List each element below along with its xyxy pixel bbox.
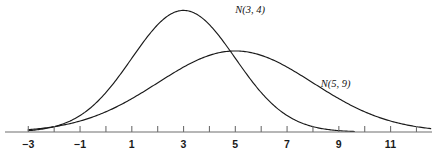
- curve-label-2: N(5, 9): [320, 78, 351, 90]
- axis-tick-label: 5: [232, 138, 238, 150]
- curve-annotations: N(3, 4)N(5, 9): [234, 4, 351, 90]
- axis-tick-label: −1: [74, 138, 86, 150]
- axis-ticks: [28, 126, 416, 132]
- normal-distribution-figure: −3−11357911 N(3, 4)N(5, 9): [0, 0, 432, 159]
- axis-tick-label: −3: [22, 138, 34, 150]
- axis-tick-label: 7: [284, 138, 290, 150]
- axis-tick-label: 9: [336, 138, 342, 150]
- axis-tick-label: 3: [181, 138, 187, 150]
- density-curve-2: [28, 51, 430, 130]
- axis-tick-label: 1: [129, 138, 135, 150]
- axis-tick-labels: −3−11357911: [22, 138, 396, 150]
- curve-label-1: N(3, 4): [234, 4, 265, 16]
- curves-group: [28, 10, 430, 131]
- density-curve-1: [28, 10, 354, 131]
- axis-tick-label: 11: [385, 138, 397, 150]
- chart-canvas: −3−11357911 N(3, 4)N(5, 9): [0, 0, 432, 159]
